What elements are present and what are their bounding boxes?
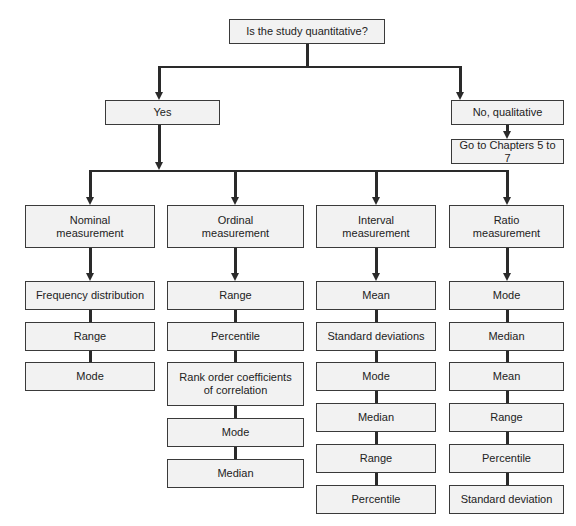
item-label: Mode xyxy=(493,289,521,302)
ratio-item: Percentile xyxy=(449,444,564,473)
item-label: Standard deviation xyxy=(461,493,553,506)
no-qualitative-box: No, qualitative xyxy=(451,100,564,125)
item-label: Median xyxy=(217,467,253,480)
measurement-line1: Ordinal xyxy=(218,214,253,227)
interval-item: Standard deviations xyxy=(316,322,436,351)
item-label: Median xyxy=(488,330,524,343)
item-label: Frequency distribution xyxy=(36,289,144,302)
item-label: Median xyxy=(358,411,394,424)
connector xyxy=(158,124,161,162)
measurement-line2: measurement xyxy=(56,227,123,240)
item-label: Range xyxy=(360,452,392,465)
arrow-down-icon xyxy=(372,197,380,205)
connector xyxy=(234,446,237,459)
yes-box: Yes xyxy=(105,100,220,125)
connector xyxy=(375,350,378,362)
ratio-item: Range xyxy=(449,403,564,432)
ordinal-item: Mode xyxy=(167,418,304,447)
connector xyxy=(375,431,378,444)
arrow-down-icon xyxy=(86,197,94,205)
interval-item: Mean xyxy=(316,281,436,310)
interval-item: Range xyxy=(316,444,436,473)
connector xyxy=(506,170,509,197)
interval-measurement-box: Interval measurement xyxy=(316,205,436,248)
connector xyxy=(506,309,509,322)
item-label: Range xyxy=(74,330,106,343)
measurement-line1: Nominal xyxy=(70,214,110,227)
ordinal-item: Percentile xyxy=(167,322,304,351)
arrow-down-icon xyxy=(155,92,163,100)
nominal-measurement-box: Nominal measurement xyxy=(25,205,155,248)
item-label: Percentile xyxy=(211,330,260,343)
ordinal-item: Median xyxy=(167,459,304,488)
item-label: Mode xyxy=(362,370,390,383)
arrow-down-icon xyxy=(372,273,380,281)
measurement-line2: measurement xyxy=(473,227,540,240)
connector xyxy=(506,247,509,273)
connector xyxy=(234,350,237,362)
ratio-measurement-box: Ratio measurement xyxy=(449,205,564,248)
connector xyxy=(375,390,378,403)
interval-item: Mode xyxy=(316,362,436,391)
connector xyxy=(89,170,509,172)
root-question-box: Is the study quantitative? xyxy=(229,19,385,44)
connector xyxy=(89,247,92,273)
measurement-line1: Ratio xyxy=(494,214,520,227)
interval-item: Median xyxy=(316,403,436,432)
connector xyxy=(375,170,378,197)
item-label: Percentile xyxy=(482,452,531,465)
connector xyxy=(89,309,92,322)
nominal-item: Range xyxy=(25,322,155,351)
nominal-item: Mode xyxy=(25,362,155,391)
arrow-down-icon xyxy=(231,273,239,281)
item-label: Mean xyxy=(362,289,390,302)
ordinal-item: Rank order coefficients of correlation xyxy=(167,362,304,406)
ratio-item: Mean xyxy=(449,362,564,391)
measurement-line1: Interval xyxy=(358,214,394,227)
connector xyxy=(89,350,92,362)
item-label: Standard deviations xyxy=(327,330,424,343)
ratio-item: Mode xyxy=(449,281,564,310)
connector xyxy=(234,309,237,322)
item-label: Mode xyxy=(222,426,250,439)
item-label: Percentile xyxy=(352,493,401,506)
yes-label: Yes xyxy=(154,106,172,119)
connector xyxy=(306,43,309,68)
measurement-line2: measurement xyxy=(202,227,269,240)
connector xyxy=(375,309,378,322)
connector xyxy=(506,390,509,403)
nominal-item: Frequency distribution xyxy=(25,281,155,310)
item-label: Range xyxy=(490,411,522,424)
connector xyxy=(375,247,378,273)
connector xyxy=(506,472,509,485)
connector xyxy=(375,472,378,485)
chapters-label: Go to Chapters 5 to 7 xyxy=(456,139,559,165)
item-label: Mean xyxy=(493,370,521,383)
arrow-down-icon xyxy=(503,273,511,281)
connector xyxy=(234,405,237,418)
item-label: Mode xyxy=(76,370,104,383)
connector xyxy=(89,170,92,197)
connector xyxy=(158,66,462,68)
interval-item: Percentile xyxy=(316,485,436,514)
arrow-down-icon xyxy=(456,92,464,100)
ordinal-measurement-box: Ordinal measurement xyxy=(167,205,304,248)
item-label: of correlation xyxy=(204,384,268,397)
connector xyxy=(234,247,237,273)
arrow-down-icon xyxy=(503,197,511,205)
ratio-item: Standard deviation xyxy=(449,485,564,514)
item-label: Range xyxy=(219,289,251,302)
connector xyxy=(234,170,237,197)
connector xyxy=(158,66,161,92)
item-label: Rank order coefficients xyxy=(179,371,291,384)
chapters-box: Go to Chapters 5 to 7 xyxy=(451,139,564,164)
ratio-item: Median xyxy=(449,322,564,351)
arrow-down-icon xyxy=(155,162,163,170)
no-qualitative-label: No, qualitative xyxy=(473,106,543,119)
arrow-down-icon xyxy=(86,273,94,281)
ordinal-item: Range xyxy=(167,281,304,310)
connector xyxy=(459,66,462,92)
arrow-down-icon xyxy=(231,197,239,205)
measurement-line2: measurement xyxy=(342,227,409,240)
connector xyxy=(506,431,509,444)
